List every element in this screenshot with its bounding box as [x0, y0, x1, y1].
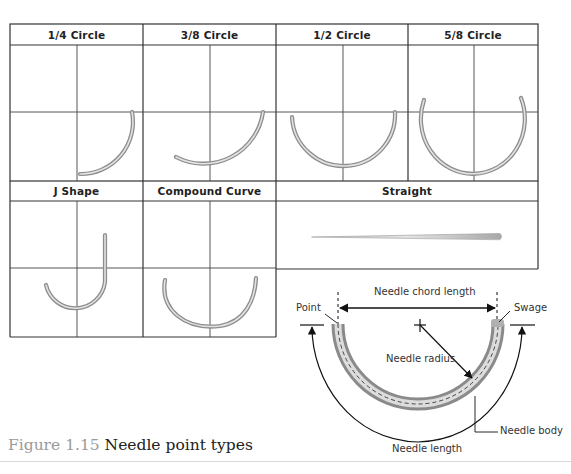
header-half-circle: 1/2 Circle [276, 29, 408, 41]
header-straight: Straight [276, 185, 538, 197]
three-eighths-circle-needle [176, 112, 263, 164]
figure-title: Needle point types [105, 436, 253, 454]
needle-anatomy-diagram [300, 292, 535, 442]
five-eighths-circle-needle [421, 98, 525, 174]
label-point: Point [296, 302, 321, 313]
label-needle-body: Needle body [500, 425, 563, 436]
header-j-shape: J Shape [10, 185, 143, 197]
header-compound-curve: Compound Curve [143, 185, 276, 197]
label-needle-length: Needle length [392, 443, 462, 454]
label-chord-length: Needle chord length [374, 286, 476, 297]
figure-caption: Figure 1.15 Needle point types [8, 436, 253, 454]
j-shape-needle [46, 235, 105, 308]
header-quarter-circle: 1/4 Circle [10, 29, 143, 41]
radius-arrow [420, 325, 472, 378]
figure-number: Figure 1.15 [8, 436, 100, 454]
half-circle-needle [292, 112, 395, 166]
label-swage: Swage [514, 302, 547, 313]
straight-needle [312, 234, 502, 240]
quarter-circle-needle [80, 112, 133, 174]
label-radius: Needle radius [386, 353, 455, 364]
needle-figure-graphic [0, 0, 571, 474]
caption-divider [0, 461, 571, 462]
header-five-eighths-circle: 5/8 Circle [408, 29, 538, 41]
header-three-eighths-circle: 3/8 Circle [143, 29, 276, 41]
